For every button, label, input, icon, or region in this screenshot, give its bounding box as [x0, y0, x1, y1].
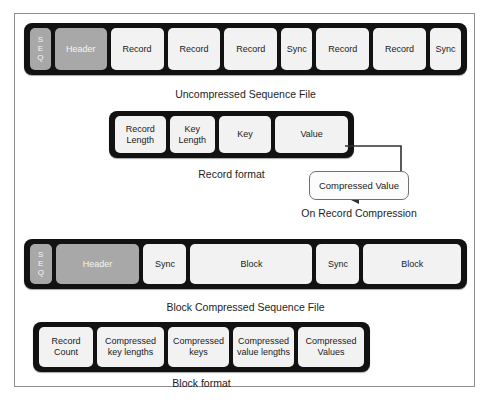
block-format-bar: Record Count Compressed key lengths Comp…: [33, 322, 370, 372]
cell-record-count: Record Count: [39, 327, 93, 367]
cell-sync: Sync: [281, 28, 312, 70]
cell-header: Header: [56, 244, 140, 284]
block-compressed-sequence-file-bar: S E Q Header Sync Block Sync Block: [24, 239, 467, 289]
caption-block-format: Block format: [33, 377, 370, 389]
cell-compressed-keys: Compressed keys: [168, 327, 229, 367]
cell-key-length: Key Length: [170, 116, 215, 153]
cell-block: Block: [190, 244, 312, 284]
cell-sync: Sync: [316, 244, 359, 284]
cell-block: Block: [363, 244, 461, 284]
seq-letter-q: Q: [38, 269, 44, 277]
cell-compressed-value-lengths: Compressed value lengths: [233, 327, 294, 367]
caption-block-compressed-sequence-file: Block Compressed Sequence File: [15, 301, 476, 313]
uncompressed-sequence-file-bar: S E Q Header Record Record Record Sync R…: [24, 23, 467, 75]
seq-letter-e: E: [38, 260, 43, 268]
cell-seq: S E Q: [30, 244, 52, 284]
cell-compressed-key-lengths: Compressed key lengths: [97, 327, 164, 367]
seq-letter-s: S: [38, 251, 43, 259]
seq-letter-s: S: [38, 36, 43, 44]
caption-uncompressed-sequence-file: Uncompressed Sequence File: [15, 88, 476, 100]
seq-letter-q: Q: [37, 54, 43, 62]
figure-frame: S E Q Header Record Record Record Sync R…: [14, 13, 475, 387]
cell-record: Record: [316, 28, 369, 70]
cell-record: Record: [111, 28, 164, 70]
compressed-value-label: Compressed Value: [319, 180, 399, 191]
cell-sync: Sync: [143, 244, 186, 284]
cell-record: Record: [224, 28, 277, 70]
cell-compressed-values: Compressed Values: [298, 327, 364, 367]
cell-seq: S E Q: [30, 28, 51, 70]
caption-on-record-compression: On Record Compression: [259, 207, 459, 219]
cell-sync: Sync: [430, 28, 461, 70]
cell-header: Header: [55, 28, 107, 70]
cell-record-length: Record Length: [115, 116, 166, 153]
cut-off-header-text: [30, 0, 450, 10]
compressed-value-box: Compressed Value: [309, 171, 409, 200]
seq-letter-e: E: [38, 45, 43, 53]
cell-key: Key: [219, 116, 272, 153]
cell-record: Record: [168, 28, 221, 70]
cell-record: Record: [373, 28, 426, 70]
